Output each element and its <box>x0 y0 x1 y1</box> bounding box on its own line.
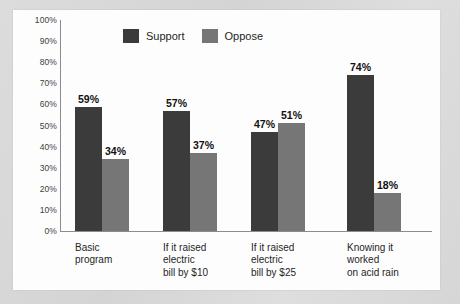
bar-value-label: 57% <box>155 97 199 109</box>
category-label-line: program <box>75 254 165 266</box>
bar-value-label: 18% <box>366 179 410 191</box>
chart-card: 0%10%20%30%40%50%60%70%80%90%100% Suppor… <box>13 10 440 290</box>
category-label-line: electric <box>163 254 253 266</box>
bar-value-label: 37% <box>182 139 226 151</box>
bar-oppose-group-3[interactable] <box>374 193 401 231</box>
bar-value-label: 59% <box>67 93 111 105</box>
bar-oppose-group-1[interactable] <box>190 153 217 231</box>
category-label-line: bill by $10 <box>163 267 253 279</box>
category-label-line: Basic <box>75 242 165 254</box>
category-label-line: on acid rain <box>347 267 437 279</box>
bar-oppose-group-2[interactable] <box>278 123 305 231</box>
category-label-line: Knowing it <box>347 242 437 254</box>
bar-value-label: 34% <box>94 145 138 157</box>
bar-oppose-group-0[interactable] <box>102 159 129 231</box>
x-axis-category-labels: BasicprogramIf it raisedelectricbill by … <box>13 242 440 290</box>
category-label-line: If it raised <box>251 242 341 254</box>
category-label-1: If it raisedelectricbill by $10 <box>163 242 253 279</box>
bar-support-group-1[interactable] <box>163 111 190 231</box>
category-label-0: Basicprogram <box>75 242 165 267</box>
category-label-line: If it raised <box>163 242 253 254</box>
category-label-2: If it raisedelectricbill by $25 <box>251 242 341 279</box>
category-label-line: electric <box>251 254 341 266</box>
category-label-3: Knowing itworkedon acid rain <box>347 242 437 279</box>
category-label-line: bill by $25 <box>251 267 341 279</box>
bar-support-group-0[interactable] <box>75 107 102 231</box>
bar-chart-plot: 0%10%20%30%40%50%60%70%80%90%100% Suppor… <box>13 10 440 290</box>
bar-support-group-3[interactable] <box>347 75 374 231</box>
bar-value-label: 51% <box>270 109 314 121</box>
category-label-line: worked <box>347 254 437 266</box>
bar-value-label: 74% <box>339 61 383 73</box>
bar-support-group-2[interactable] <box>251 132 278 231</box>
